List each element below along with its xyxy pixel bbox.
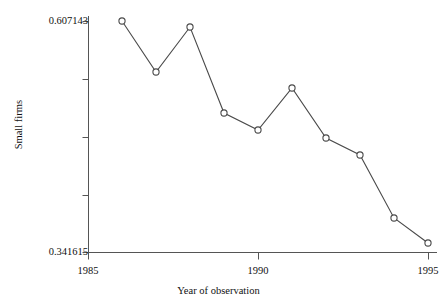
data-point	[187, 24, 193, 30]
x-axis-tick-label-1995: 1995	[418, 266, 439, 277]
data-series-line	[122, 21, 428, 243]
data-point	[119, 18, 125, 24]
y-axis-tick-label-top: 0.607143	[49, 16, 88, 27]
x-axis-tick-label-1985: 1985	[78, 266, 99, 277]
y-axis-ticks	[83, 22, 89, 253]
data-point	[255, 127, 261, 133]
x-axis-title: Year of observation	[0, 286, 437, 297]
data-point	[221, 110, 227, 116]
x-axis-tick-label-1990: 1990	[248, 266, 269, 277]
x-axis-ticks	[89, 253, 429, 260]
y-axis-title: Small firms	[14, 100, 25, 149]
data-point	[425, 240, 431, 246]
data-point	[153, 69, 159, 75]
y-axis-tick-label-bottom: 0.341615	[49, 247, 88, 258]
data-point	[289, 85, 295, 91]
data-point	[323, 135, 329, 141]
data-point	[357, 152, 363, 158]
data-point-markers	[119, 18, 431, 246]
data-point	[391, 215, 397, 221]
